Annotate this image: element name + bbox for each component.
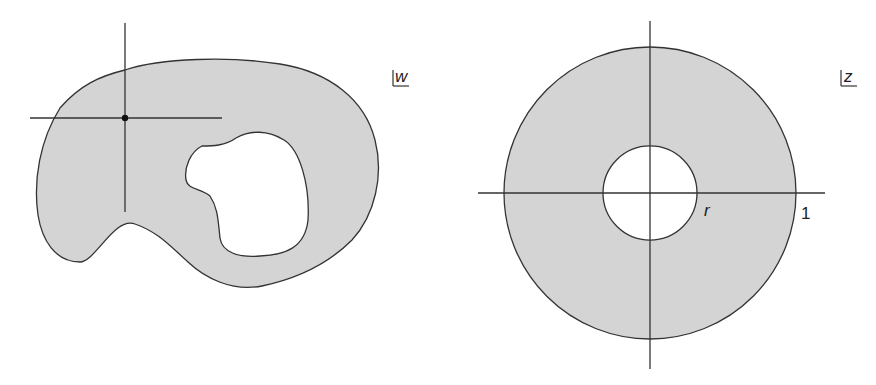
w-region: [36, 59, 378, 287]
w-plane-diagram: w: [30, 23, 409, 287]
w-center-point: [122, 115, 128, 121]
z-plane-label: z: [841, 67, 857, 86]
figure-canvas: w r 1 z: [0, 0, 876, 385]
outer-radius-label: 1: [801, 204, 810, 223]
w-plane-label: w: [393, 67, 409, 86]
w-label-text: w: [395, 67, 409, 86]
z-label-text: z: [843, 67, 853, 86]
z-plane-diagram: r 1 z: [478, 21, 857, 369]
